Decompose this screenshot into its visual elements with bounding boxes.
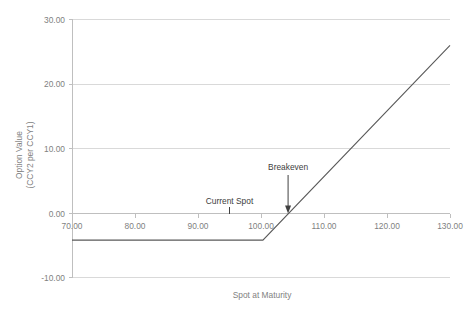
- x-tick-label-100: 100.00: [248, 221, 274, 231]
- y-axis-title-line2: (CCY2 per CCY1): [25, 121, 35, 188]
- y-tick-label-20: 20.00: [44, 79, 65, 89]
- y-tick-label-10: 10.00: [44, 144, 65, 154]
- option-payoff-chart: 30.00 20.00 10.00 0.00 -10.00 70.00 80.0…: [0, 0, 476, 313]
- x-tick-label-130: 130.00: [437, 221, 463, 231]
- y-axis-title: Option Value (CCY2 per CCY1): [14, 121, 35, 188]
- y-axis-title-line1: Option Value: [14, 131, 24, 179]
- x-tick-labels: 70.00 80.00 90.00 100.00 110.00 120.00 1…: [62, 221, 464, 231]
- gridlines: [72, 20, 450, 278]
- payoff-line: [72, 45, 450, 240]
- x-tick-label-120: 120.00: [374, 221, 400, 231]
- annotation-current-spot: Current Spot: [206, 196, 254, 214]
- y-tick-labels: 30.00 20.00 10.00 0.00 -10.00: [41, 15, 65, 283]
- x-tick-marks: [73, 214, 451, 218]
- y-tick-marks: [69, 20, 73, 278]
- y-tick-label-0: 0.00: [49, 209, 66, 219]
- x-axis-title: Spot at Maturity: [233, 290, 292, 300]
- y-tick-label-30: 30.00: [44, 15, 65, 25]
- annotation-breakeven: Breakeven: [268, 162, 308, 214]
- x-tick-label-80: 80.00: [125, 221, 146, 231]
- y-tick-label-m10: -10.00: [41, 273, 65, 283]
- breakeven-label: Breakeven: [268, 162, 308, 172]
- x-tick-label-90: 90.00: [188, 221, 209, 231]
- x-tick-label-110: 110.00: [312, 221, 337, 231]
- x-tick-label-70: 70.00: [62, 221, 83, 231]
- current-spot-label: Current Spot: [206, 196, 254, 206]
